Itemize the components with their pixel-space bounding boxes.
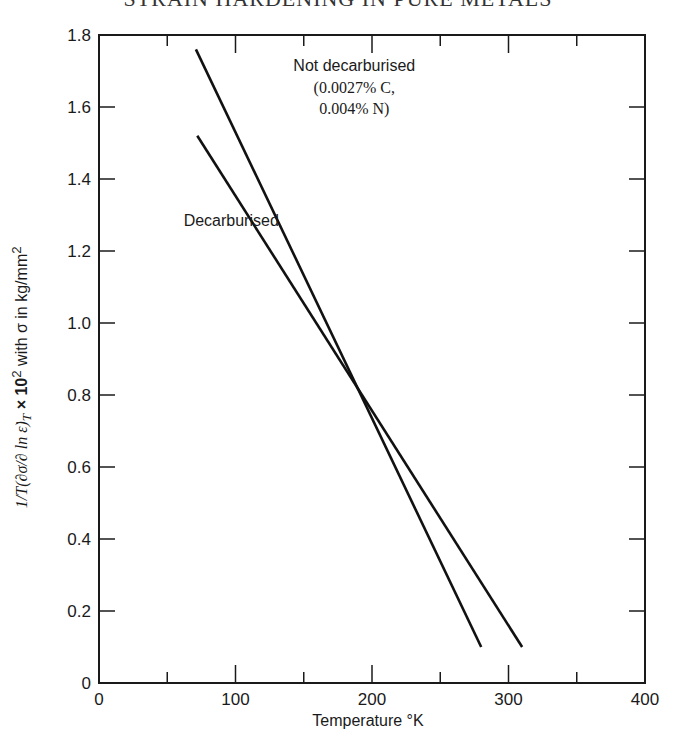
- y-tick-label: 1.6: [67, 98, 91, 117]
- y-label-exponent: 2: [9, 370, 24, 377]
- annotation-not-decarburised: Not decarburised: [293, 57, 415, 74]
- series-not-decarburised: [196, 49, 481, 647]
- y-tick-label: 0.4: [67, 530, 91, 549]
- chart-plot: 00.20.40.60.81.01.21.41.61.8010020030040…: [0, 0, 676, 752]
- y-tick-label: 0.8: [67, 386, 91, 405]
- y-label-multiplier: × 10: [13, 378, 30, 414]
- y-tick-label: 1.8: [67, 26, 91, 45]
- y-tick-label: 0.6: [67, 458, 91, 477]
- y-label-fraction: 1/T: [13, 487, 30, 508]
- y-label-units: with σ in kg/mm: [13, 254, 30, 371]
- y-label-subscript: T: [19, 414, 34, 421]
- y-label-derivative: (∂σ/∂ ln ε̇): [13, 421, 30, 487]
- annotation-decarburised: Decarburised: [184, 212, 279, 229]
- y-tick-label: 1.4: [67, 170, 91, 189]
- y-label-units-exponent: 2: [9, 246, 24, 253]
- annotation-nitrogen-content: 0.004% N): [319, 100, 389, 118]
- x-tick-label: 300: [494, 690, 522, 709]
- y-axis-label: 1/T(∂σ/∂ ln ε̇)T × 102 with σ in kg/mm2: [9, 207, 36, 547]
- y-tick-label: 1.0: [67, 314, 91, 333]
- y-tick-label: 0: [82, 674, 91, 693]
- y-tick-label: 1.2: [67, 242, 91, 261]
- annotation-carbon-content: (0.0027% C,: [314, 79, 395, 97]
- x-tick-label: 100: [221, 690, 249, 709]
- x-tick-label: 200: [358, 690, 386, 709]
- x-tick-label: 400: [631, 690, 659, 709]
- y-tick-label: 0.2: [67, 602, 91, 621]
- x-axis-label: Temperature °K: [0, 712, 676, 730]
- plot-frame: [99, 35, 645, 683]
- x-tick-label: 0: [94, 690, 103, 709]
